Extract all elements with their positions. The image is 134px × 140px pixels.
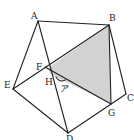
label-d: D (66, 134, 73, 140)
label-f: F (36, 62, 42, 72)
label-a: A (30, 11, 38, 21)
edge-ae (13, 21, 38, 89)
label-b: B (109, 13, 116, 23)
angle-label: ア (59, 84, 69, 94)
edge-dc (68, 94, 126, 133)
geometry-figure: A B C D E F G H ア (0, 0, 134, 140)
edge-ab (38, 21, 109, 25)
label-c: C (127, 93, 134, 103)
label-e: E (4, 80, 11, 90)
label-g: G (108, 108, 115, 118)
edge-bc (109, 25, 126, 94)
label-h: H (45, 77, 53, 87)
edge-ed (13, 89, 68, 133)
